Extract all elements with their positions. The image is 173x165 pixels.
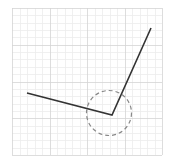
minor-grid (12, 8, 162, 155)
diagram-svg (0, 0, 173, 165)
vertex-dashed-circle (87, 91, 132, 136)
diagram-canvas (0, 0, 173, 165)
